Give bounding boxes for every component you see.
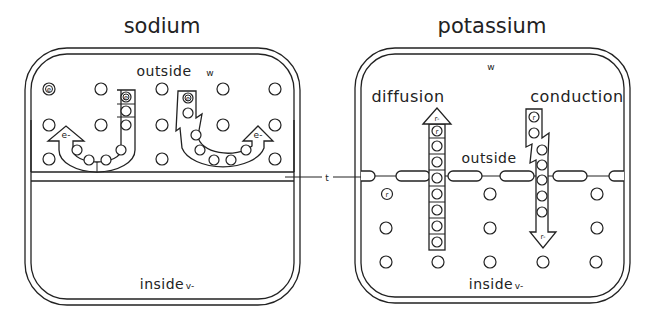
particle <box>183 108 193 118</box>
particle <box>432 141 442 151</box>
particle <box>432 221 442 231</box>
membrane-pore <box>500 171 534 181</box>
particle <box>484 188 496 200</box>
particle <box>432 237 442 247</box>
potassium-membrane <box>361 171 624 181</box>
particle <box>226 155 236 165</box>
marked-particle-label: e <box>186 95 190 103</box>
right-arrow-tip-label: e- <box>254 130 263 140</box>
conduction-label: conduction <box>530 87 623 106</box>
particle <box>95 83 107 95</box>
connector-label: t <box>325 173 329 183</box>
particle <box>269 83 281 95</box>
particle <box>101 155 111 165</box>
particle <box>591 188 603 200</box>
particle <box>537 145 547 155</box>
sodium-panel: sodium outside w inside v- e <box>25 14 300 305</box>
membrane-pore-end <box>609 171 624 181</box>
sodium-outside-label: outside <box>136 63 191 79</box>
particle <box>537 191 547 201</box>
particle <box>432 205 442 215</box>
particle <box>191 130 201 140</box>
potassium-inside-label: inside <box>469 276 513 292</box>
particle <box>217 119 229 131</box>
potassium-inside-symbol: v- <box>515 281 523 291</box>
particle <box>241 145 251 155</box>
particle <box>432 157 442 167</box>
membrane-pore <box>553 171 587 181</box>
particle <box>43 119 55 131</box>
potassium-particles: r <box>380 188 603 268</box>
potassium-title: potassium <box>438 14 547 38</box>
particle <box>269 153 281 165</box>
particle <box>432 256 444 268</box>
particle <box>116 145 126 155</box>
left-arrow-tip-label: e- <box>62 130 71 140</box>
marked-particle-label: r <box>436 128 439 136</box>
particle <box>121 106 131 116</box>
particle <box>156 83 168 95</box>
particle <box>195 145 205 155</box>
particle <box>591 222 603 234</box>
particle <box>95 119 107 131</box>
sodium-outside-symbol: w <box>206 68 213 78</box>
diffusion-label: diffusion <box>371 87 444 106</box>
marked-particle-label: r <box>533 114 536 122</box>
particle <box>529 128 539 138</box>
diffusion-arrow-tip-label: r- <box>435 115 440 123</box>
potassium-outside-label: outside <box>461 150 516 166</box>
particle <box>217 83 229 95</box>
particle <box>72 145 82 155</box>
particle <box>43 153 55 165</box>
conduction-arrow-tip-label: r- <box>541 233 546 241</box>
membrane-pore-end <box>361 171 375 181</box>
particle <box>537 256 549 268</box>
marked-particle-label: e <box>47 86 51 94</box>
sodium-title: sodium <box>124 14 201 38</box>
particle <box>537 175 547 185</box>
particle <box>484 256 496 268</box>
sodium-inside-label: inside <box>140 276 184 292</box>
particle <box>156 153 168 165</box>
marked-particle-label: e <box>124 94 128 102</box>
particle <box>121 120 131 130</box>
particle <box>84 155 94 165</box>
particle <box>380 222 392 234</box>
particle <box>432 189 442 199</box>
particle <box>484 222 496 234</box>
potassium-top-symbol: w <box>487 62 494 72</box>
potassium-panel: potassium w diffusion conduction outside… <box>355 14 630 303</box>
membrane-pore <box>448 171 482 181</box>
particle <box>590 256 602 268</box>
particle <box>269 119 281 131</box>
diagram-canvas: sodium outside w inside v- e <box>0 0 657 319</box>
particle <box>380 256 392 268</box>
particle <box>537 160 547 170</box>
sodium-left-u-arrow: e e- <box>48 90 135 172</box>
sodium-inside-symbol: v- <box>186 281 194 291</box>
marked-particle-label: r <box>386 191 389 199</box>
membrane-pore <box>396 171 430 181</box>
particle <box>432 173 442 183</box>
particle <box>156 119 168 131</box>
particle <box>209 155 219 165</box>
particle <box>537 207 547 217</box>
